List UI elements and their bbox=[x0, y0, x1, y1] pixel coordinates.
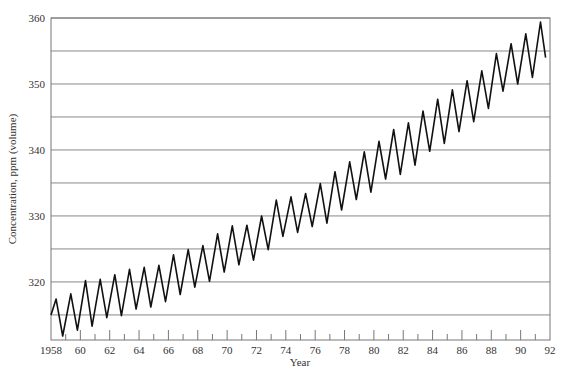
horizontal-gridlines bbox=[51, 18, 550, 315]
y-tick-label: 350 bbox=[29, 78, 46, 90]
co2-series-line bbox=[51, 22, 546, 336]
x-tick-label: 80 bbox=[368, 344, 380, 356]
x-tick-label: 60 bbox=[75, 344, 87, 356]
x-tick-label: 66 bbox=[163, 344, 175, 356]
x-tick-label: 1958 bbox=[40, 344, 63, 356]
x-tick-label: 78 bbox=[339, 344, 351, 356]
x-tick-label: 74 bbox=[280, 344, 292, 356]
x-tick-label: 92 bbox=[545, 344, 556, 356]
y-tick-label: 360 bbox=[29, 12, 46, 24]
x-tick-label: 82 bbox=[398, 344, 409, 356]
x-tick-label: 62 bbox=[104, 344, 115, 356]
x-tick-label: 84 bbox=[427, 344, 439, 356]
x-tick-label: 86 bbox=[456, 344, 468, 356]
x-tick-label: 72 bbox=[251, 344, 262, 356]
y-tick-label: 320 bbox=[29, 276, 46, 288]
y-axis-ticks: 320330340350360 bbox=[29, 12, 46, 288]
x-tick-label: 88 bbox=[486, 344, 498, 356]
x-tick-label: 64 bbox=[134, 344, 146, 356]
x-tick-label: 76 bbox=[310, 344, 322, 356]
y-axis-title: Concentration, ppm (volume) bbox=[6, 113, 19, 244]
x-axis-ticks: 19586062646668707274767880828486889092 bbox=[40, 330, 556, 356]
x-axis-title: Year bbox=[290, 356, 311, 368]
y-tick-label: 340 bbox=[29, 144, 46, 156]
co2-concentration-chart: 19586062646668707274767880828486889092 3… bbox=[0, 0, 569, 382]
x-tick-label: 68 bbox=[192, 344, 204, 356]
x-tick-label: 90 bbox=[515, 344, 527, 356]
y-tick-label: 330 bbox=[29, 210, 46, 222]
x-tick-label: 70 bbox=[222, 344, 234, 356]
